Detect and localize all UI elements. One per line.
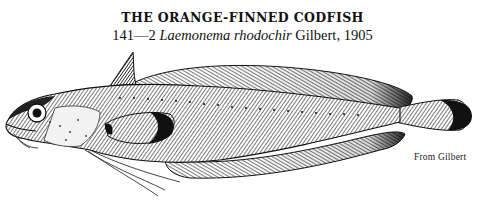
first-dorsal-fin-icon: [110, 52, 136, 86]
fish-illustration: [0, 0, 485, 204]
image-credit: From Gilbert: [414, 152, 466, 162]
illustration-plate: THE ORANGE-FINNED CODFISH 141—2 Laemonem…: [0, 0, 485, 204]
